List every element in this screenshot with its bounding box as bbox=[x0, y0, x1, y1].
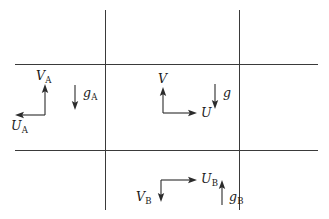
v-b-label: VB bbox=[136, 191, 151, 204]
g-label: g bbox=[223, 87, 231, 100]
cell-b-gravity-vector bbox=[219, 180, 225, 205]
u-label: U bbox=[201, 107, 212, 120]
vector-diagram-figure: VA UA gA V U g VB UB gB bbox=[0, 0, 329, 219]
cell-a-gravity-vector bbox=[72, 85, 78, 110]
v-label: V bbox=[158, 73, 167, 86]
cell-a-velocity-vectors bbox=[15, 84, 48, 118]
v-a-label: VA bbox=[36, 70, 51, 83]
g-a-label: gA bbox=[83, 87, 97, 100]
cell-b-velocity-vectors bbox=[158, 177, 197, 202]
center-gravity-vector bbox=[212, 84, 218, 109]
u-a-label: UA bbox=[11, 120, 28, 133]
g-b-label: gB bbox=[229, 191, 243, 204]
center-velocity-vectors bbox=[160, 87, 197, 116]
diagram-canvas bbox=[0, 0, 329, 219]
u-b-label: UB bbox=[201, 173, 218, 186]
